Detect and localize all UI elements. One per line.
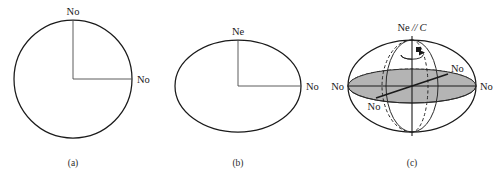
panel-b-right-label: No: [306, 81, 319, 92]
panel-c-inner-lower-left-label: No: [368, 101, 381, 112]
panel-c-left-label: No: [331, 81, 344, 92]
rotation-arrow-arc-front: [401, 55, 412, 59]
panel-c: Ne//C No No No No (c): [331, 22, 493, 169]
panel-c-right-label: No: [480, 81, 493, 92]
panel-c-top-prefix: Ne: [397, 22, 410, 33]
panel-a: No No (a): [14, 6, 150, 169]
panel-b-caption: (b): [232, 158, 243, 169]
panel-c-top-separator: //: [411, 22, 419, 33]
panel-c-top-axis: C: [420, 22, 428, 33]
panel-c-inner-upper-right-label: No: [451, 63, 464, 74]
panel-c-top-label-group: Ne//C: [397, 22, 427, 33]
indicatrix-figure: No No (a) Ne No (b): [0, 0, 501, 180]
panel-c-caption: (c): [407, 158, 418, 169]
panel-b-top-label: Ne: [232, 26, 245, 37]
rotation-arrow-marker: [416, 47, 421, 52]
panel-a-right-label: No: [137, 74, 150, 85]
panel-a-caption: (a): [68, 158, 79, 169]
panel-b: Ne No (b): [175, 26, 319, 169]
panel-a-top-label: No: [67, 6, 80, 17]
